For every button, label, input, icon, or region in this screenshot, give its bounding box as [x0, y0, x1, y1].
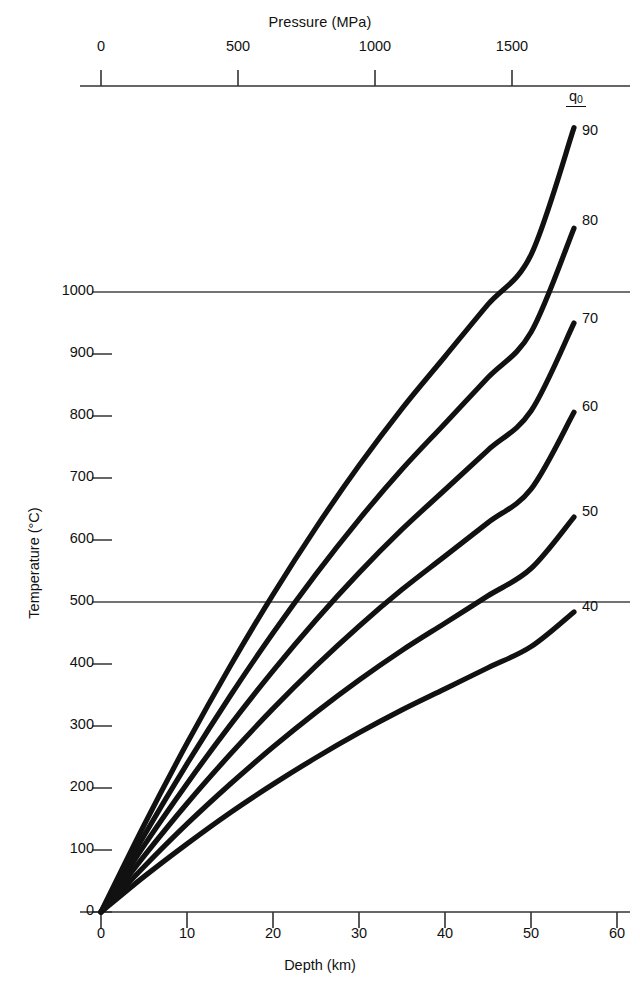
q0-symbol-letter: q [569, 88, 577, 104]
x-tick-label-30: 30 [324, 925, 394, 941]
y-tick-label-100: 100 [4, 840, 94, 856]
x-tick-label-0: 0 [66, 925, 136, 941]
plot-area [0, 0, 640, 990]
x-tick-label-50: 50 [496, 925, 566, 941]
q0-symbol: q0 [566, 88, 586, 107]
curve-label-80: 80 [582, 212, 598, 228]
y-tick-label-200: 200 [4, 778, 94, 794]
curve-label-40: 40 [582, 598, 598, 614]
y-tick-label-900: 900 [4, 344, 94, 360]
x-tick-label-20: 20 [238, 925, 308, 941]
top-axis-ticks [101, 70, 512, 86]
y-tick-label-800: 800 [4, 406, 94, 422]
x-tick-label-60: 60 [582, 925, 640, 941]
geotherm-curves [101, 128, 574, 912]
y-tick-label-700: 700 [4, 468, 94, 484]
geotherm-curve-40 [101, 612, 574, 912]
top-tick-label-500: 500 [203, 38, 273, 54]
top-tick-label-1500: 1500 [477, 38, 547, 54]
top-tick-label-1000: 1000 [340, 38, 410, 54]
top-tick-label-0: 0 [66, 38, 136, 54]
y-tick-label-1000: 1000 [4, 282, 94, 298]
curve-label-50: 50 [582, 503, 598, 519]
y-axis-ticks [92, 354, 112, 912]
y-tick-label-0: 0 [4, 902, 94, 918]
y-tick-label-300: 300 [4, 716, 94, 732]
curve-label-70: 70 [582, 310, 598, 326]
x-tick-label-10: 10 [152, 925, 222, 941]
y-tick-label-600: 600 [4, 530, 94, 546]
top-axis-title: Pressure (MPa) [0, 14, 640, 30]
q0-legend-header: q0 [566, 88, 586, 107]
curve-label-60: 60 [582, 398, 598, 414]
curve-label-90: 90 [582, 122, 598, 138]
geotherm-figure: Pressure (MPa) 0 500 1000 1500 q0 Temper… [0, 0, 640, 990]
bottom-axis-title: Depth (km) [0, 957, 640, 973]
y-tick-label-500: 500 [4, 592, 94, 608]
y-tick-label-400: 400 [4, 654, 94, 670]
q0-symbol-subscript: 0 [577, 93, 583, 105]
geotherm-curve-90 [101, 128, 574, 912]
x-tick-label-40: 40 [410, 925, 480, 941]
